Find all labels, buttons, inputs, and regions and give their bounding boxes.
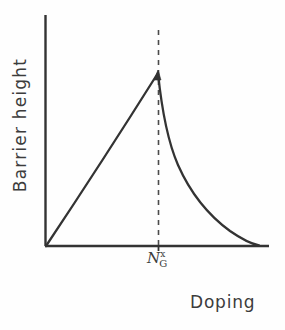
plot-area bbox=[0, 0, 285, 330]
y-axis-label: Barrier height bbox=[0, 0, 40, 250]
tick-subscript: G bbox=[159, 258, 167, 269]
y-axis-label-text: Barrier height bbox=[10, 58, 30, 192]
figure-container: Barrier height Doping NxG bbox=[0, 0, 285, 330]
x-axis-label: Doping bbox=[190, 292, 255, 312]
x-axis-tick-label-critical-doping: NxG bbox=[147, 251, 167, 266]
curve-rising-branch bbox=[46, 73, 158, 246]
curve-decay-branch bbox=[158, 73, 259, 245]
curve-peak-cusp bbox=[154, 70, 161, 80]
